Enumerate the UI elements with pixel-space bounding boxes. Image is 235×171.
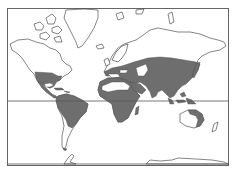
arctic-archipelago xyxy=(34,14,62,42)
range-south-america xyxy=(56,94,88,128)
range-caribbean xyxy=(54,88,70,93)
antarctica xyxy=(146,158,228,164)
range-madagascar xyxy=(135,106,139,115)
arctic-islands xyxy=(116,9,174,24)
iceland xyxy=(96,44,104,49)
new-zealand xyxy=(212,122,218,132)
antarctic-peninsula xyxy=(64,154,76,164)
greenland xyxy=(64,9,98,48)
world-distribution-map xyxy=(0,0,235,171)
mediterranean xyxy=(108,74,120,78)
map-svg xyxy=(0,0,235,171)
